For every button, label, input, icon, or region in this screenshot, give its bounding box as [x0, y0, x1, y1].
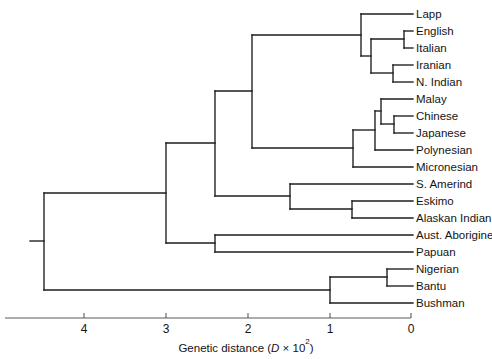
axis-tick-label: 4 — [81, 322, 88, 336]
axis-tick-label: 0 — [408, 322, 415, 336]
tip-label: Micronesian — [416, 161, 478, 173]
tip-label: English — [416, 25, 454, 37]
tip-label: Aust. Aborigine — [416, 229, 492, 241]
tip-label: Bushman — [416, 297, 465, 309]
tip-label: Bantu — [416, 280, 446, 292]
tip-label: Japanese — [416, 127, 466, 139]
axis-title-prefix: Genetic distance ( — [178, 342, 271, 354]
tip-label: Alaskan Indian — [416, 212, 491, 224]
axis-tick-label: 3 — [163, 322, 170, 336]
axis-title-variable: D — [271, 342, 279, 354]
tip-label: Nigerian — [416, 263, 459, 275]
dendrogram-svg: LappEnglishItalianIranianN. IndianMalayC… — [0, 0, 492, 359]
axis-title: Genetic distance (D × 102) — [178, 337, 313, 355]
axis-tick-label: 1 — [327, 322, 334, 336]
figure-canvas: LappEnglishItalianIranianN. IndianMalayC… — [0, 0, 492, 359]
tip-label: Chinese — [416, 110, 458, 122]
tip-label: N. Indian — [416, 76, 462, 88]
tip-label: Malay — [416, 93, 447, 105]
axis-tick-label: 2 — [245, 322, 252, 336]
tip-label: Polynesian — [416, 144, 472, 156]
tip-label: Papuan — [416, 246, 456, 258]
tip-label: Eskimo — [416, 195, 454, 207]
tree-tip-labels: LappEnglishItalianIranianN. IndianMalayC… — [416, 8, 492, 309]
axis-title-middle: × 10 — [279, 342, 305, 354]
tree-branches — [30, 14, 413, 303]
tip-label: Lapp — [416, 8, 442, 20]
axis-title-suffix: ) — [310, 342, 314, 354]
tip-label: Iranian — [416, 59, 451, 71]
tip-label: Italian — [416, 42, 447, 54]
tip-label: S. Amerind — [416, 178, 472, 190]
genetic-distance-axis: 43210 — [5, 313, 415, 336]
